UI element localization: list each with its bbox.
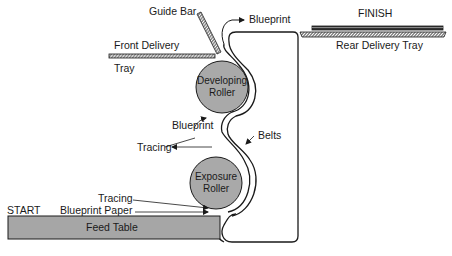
belts-label: Belts	[258, 130, 281, 141]
blueprint-mid-label: Blueprint	[172, 120, 213, 131]
start-label: START	[7, 205, 40, 216]
blueprint-paper-label: Blueprint Paper	[60, 205, 132, 216]
finish-label: FINISH	[358, 8, 392, 19]
rear-delivery-tray-label: Rear Delivery Tray	[336, 40, 423, 51]
front-delivery-tray	[109, 54, 215, 58]
developing-roller-label: Developing Roller	[192, 75, 252, 99]
guide-bar-label: Guide Bar	[149, 6, 196, 17]
exposure-roller-label: Exposure Roller	[186, 171, 246, 195]
guide-bar	[197, 12, 221, 54]
feed-table-label: Feed Table	[86, 222, 138, 233]
blueprint-exit-label: Blueprint	[249, 14, 290, 25]
tray-label: Tray	[114, 63, 135, 74]
rear-delivery-tray	[300, 26, 446, 37]
tracing-in-label: Tracing	[98, 193, 133, 204]
tracing-out-label: Tracing	[137, 142, 172, 153]
front-delivery-label: Front Delivery	[114, 40, 179, 51]
